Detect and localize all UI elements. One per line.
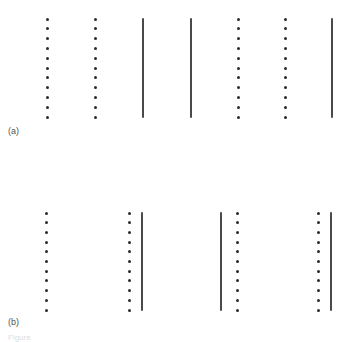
dot [317, 212, 320, 215]
vertical-line [141, 212, 143, 311]
dot [128, 309, 131, 312]
dot [317, 309, 320, 312]
dot [317, 270, 320, 273]
dot [128, 260, 131, 263]
dot [317, 299, 320, 302]
dot [236, 270, 239, 273]
dot [128, 231, 131, 234]
panel-a-label: (a) [8, 126, 19, 136]
dot [45, 231, 48, 234]
dot [317, 231, 320, 234]
dot [236, 299, 239, 302]
dot [236, 260, 239, 263]
dot [317, 260, 320, 263]
dot [236, 241, 239, 244]
figure-caption: Figure [8, 333, 31, 342]
dot [45, 289, 48, 292]
dot [317, 289, 320, 292]
dot [128, 279, 131, 282]
dot [128, 299, 131, 302]
dot [317, 279, 320, 282]
dot [317, 221, 320, 224]
vertical-line [330, 212, 332, 311]
dot [45, 309, 48, 312]
dot [317, 241, 320, 244]
vertical-line [220, 212, 222, 311]
dot [236, 250, 239, 253]
dot [236, 309, 239, 312]
dot [236, 212, 239, 215]
dot [317, 250, 320, 253]
dot [128, 221, 131, 224]
dot [45, 212, 48, 215]
dot [236, 289, 239, 292]
dot [45, 241, 48, 244]
dot [128, 241, 131, 244]
dot [45, 279, 48, 282]
dot [45, 270, 48, 273]
dot [236, 231, 239, 234]
dot [128, 212, 131, 215]
dot [128, 270, 131, 273]
dot [45, 299, 48, 302]
dot [128, 289, 131, 292]
dot [128, 250, 131, 253]
dot [236, 221, 239, 224]
dot [45, 250, 48, 253]
dot [45, 260, 48, 263]
dot [236, 279, 239, 282]
dot [45, 221, 48, 224]
panel-b-label: (b) [8, 317, 19, 327]
